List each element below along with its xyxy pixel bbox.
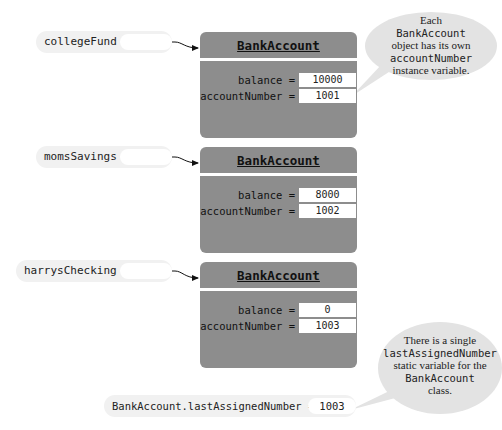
object-header: BankAccount bbox=[200, 262, 357, 288]
field-balance: balance = 10000 bbox=[200, 72, 357, 88]
reference-slot bbox=[120, 263, 172, 279]
field-label: accountNumber = bbox=[200, 318, 295, 334]
bankaccount-object-3: BankAccount balance = 0 accountNumber = … bbox=[200, 262, 357, 368]
callout-line: Each bbox=[365, 14, 497, 27]
reference-name: harrysChecking = bbox=[24, 264, 130, 277]
reference-momssavings: momsSavings = bbox=[36, 146, 172, 168]
field-value: 1002 bbox=[299, 204, 356, 218]
callout-line: BankAccount bbox=[365, 27, 497, 40]
class-name: BankAccount bbox=[237, 268, 320, 283]
field-accountnumber: accountNumber = 1003 bbox=[200, 318, 357, 334]
reference-name: collegeFund = bbox=[44, 35, 130, 48]
field-label: balance = bbox=[238, 302, 295, 318]
callout-line: class. bbox=[378, 384, 502, 397]
callout-line: instance variable. bbox=[365, 64, 497, 77]
callout-line: accountNumber bbox=[365, 52, 497, 65]
bankaccount-object-2: BankAccount balance = 8000 accountNumber… bbox=[200, 147, 357, 253]
object-body: balance = 10000 accountNumber = 1001 bbox=[200, 61, 357, 138]
field-label: accountNumber = bbox=[200, 203, 295, 219]
object-body: balance = 0 accountNumber = 1003 bbox=[200, 291, 357, 368]
class-name: BankAccount bbox=[237, 38, 320, 53]
bankaccount-object-1: BankAccount balance = 10000 accountNumbe… bbox=[200, 32, 357, 138]
field-accountnumber: accountNumber = 1001 bbox=[200, 88, 357, 104]
field-value: 0 bbox=[299, 303, 356, 317]
object-header: BankAccount bbox=[200, 32, 357, 58]
reference-collegefund: collegeFund = bbox=[36, 31, 172, 53]
object-body: balance = 8000 accountNumber = 1002 bbox=[200, 176, 357, 253]
reference-slot bbox=[120, 149, 172, 165]
callout-line: static variable for the bbox=[378, 359, 502, 372]
object-header: BankAccount bbox=[200, 147, 357, 173]
callout-line: There is a single bbox=[378, 334, 502, 347]
callout-static-variable: There is a single lastAssignedNumber sta… bbox=[378, 322, 502, 414]
static-variable-value: 1003 bbox=[308, 398, 356, 414]
reference-harryschecking: harrysChecking = bbox=[16, 260, 172, 282]
callout-line: lastAssignedNumber bbox=[378, 347, 502, 360]
field-balance: balance = 0 bbox=[200, 302, 357, 318]
field-accountnumber: accountNumber = 1002 bbox=[200, 203, 357, 219]
field-value: 10000 bbox=[299, 73, 356, 87]
callout-line: BankAccount bbox=[378, 372, 502, 385]
reference-slot bbox=[120, 34, 172, 50]
field-value: 8000 bbox=[299, 188, 356, 202]
field-balance: balance = 8000 bbox=[200, 187, 357, 203]
field-label: accountNumber = bbox=[200, 88, 295, 104]
field-label: balance = bbox=[238, 187, 295, 203]
reference-name: momsSavings = bbox=[44, 150, 130, 163]
callout-instance-variable: Each BankAccount object has its own acco… bbox=[365, 12, 497, 80]
static-variable-label: BankAccount.lastAssignedNumber = bbox=[112, 400, 314, 412]
field-label: balance = bbox=[238, 72, 295, 88]
field-value: 1003 bbox=[299, 319, 356, 333]
class-name: BankAccount bbox=[237, 153, 320, 168]
field-value: 1001 bbox=[299, 89, 356, 103]
callout-line: object has its own bbox=[365, 39, 497, 52]
static-variable-lastassignednumber: BankAccount.lastAssignedNumber = 1003 bbox=[104, 395, 356, 417]
